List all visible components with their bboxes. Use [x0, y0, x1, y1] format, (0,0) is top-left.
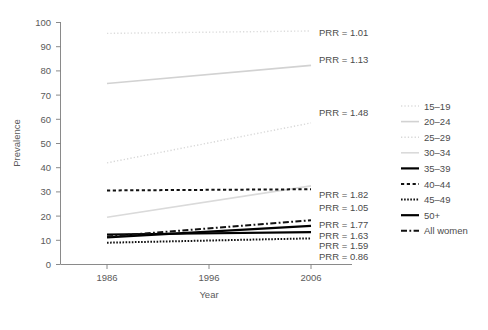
y-tick-label: 30: [40, 186, 51, 197]
x-axis-tick-labels: 1986 1996 2006: [96, 272, 321, 283]
y-tick-label: 40: [40, 162, 51, 173]
legend-label-35-39: 35–39: [424, 163, 450, 174]
legend-label-20-24: 20–24: [424, 116, 450, 127]
prr-annotations-group: PRR = 1.01PRR = 1.13PRR = 1.48PRR = 1.82…: [319, 27, 368, 262]
y-tick-label: 80: [40, 65, 51, 76]
legend-label-all-women: All women: [424, 225, 468, 236]
x-axis-title: Year: [199, 289, 218, 300]
y-tick-label: 20: [40, 211, 51, 222]
x-axis-ticks: [107, 265, 311, 270]
prr-annotation: PRR = 1.48: [319, 107, 368, 118]
series-line-25-29: [107, 123, 311, 163]
legend-label-45-49: 45–49: [424, 194, 450, 205]
prr-annotation: PRR = 1.13: [319, 54, 368, 65]
y-tick-label: 0: [46, 259, 51, 270]
x-tick-label: 1996: [198, 272, 219, 283]
y-tick-label: 50: [40, 138, 51, 149]
prevalence-by-age-line-chart: 100 90 80 70 60 50 40 30 20 10 0 1986 19…: [0, 0, 488, 330]
y-tick-label: 100: [35, 17, 51, 28]
legend-label-25-29: 25–29: [424, 132, 450, 143]
legend: 15–1920–2425–2930–3435–3940–4445–4950+Al…: [401, 101, 468, 237]
y-axis-title: Prevalence: [11, 119, 22, 167]
series-line-45-49: [107, 238, 311, 242]
prr-annotation: PRR = 1.59: [319, 240, 368, 251]
prr-annotation: PRR = 1.05: [319, 202, 368, 213]
y-tick-label: 10: [40, 235, 51, 246]
series-lines-group: [107, 31, 311, 243]
prr-annotation: PRR = 1.01: [319, 27, 368, 38]
series-line-20-24: [107, 65, 311, 83]
chart-figure: 100 90 80 70 60 50 40 30 20 10 0 1986 19…: [0, 0, 488, 330]
y-axis-ticks: [56, 23, 61, 265]
legend-label-15-19: 15–19: [424, 101, 450, 112]
legend-label-40-44: 40–44: [424, 179, 450, 190]
legend-label-50-: 50+: [424, 210, 441, 221]
series-line-15-19: [107, 31, 311, 33]
y-tick-label: 60: [40, 114, 51, 125]
prr-annotation: PRR = 1.77: [319, 219, 368, 230]
prr-annotation: PRR = 1.82: [319, 189, 368, 200]
prr-annotation: PRR = 0.86: [319, 251, 368, 262]
x-tick-label: 2006: [300, 272, 321, 283]
x-tick-label: 1986: [96, 272, 117, 283]
legend-label-30-34: 30–34: [424, 147, 450, 158]
y-axis-tick-labels: 100 90 80 70 60 50 40 30 20 10 0: [35, 17, 51, 270]
y-tick-label: 90: [40, 41, 51, 52]
y-tick-label: 70: [40, 90, 51, 101]
